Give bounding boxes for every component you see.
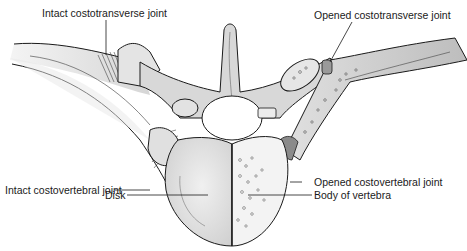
vertebral-body [165,137,288,246]
label-intact-costotransverse-joint: Intact costotransverse joint [42,7,167,19]
label-opened-costotransverse-joint: Opened costotransverse joint [314,9,451,21]
label-disk: Disk [105,189,125,201]
vertebra-illustration [0,0,467,251]
label-body-of-vertebra: Body of vertebra [314,189,391,201]
label-opened-costovertebral-joint: Opened costovertebral joint [314,176,442,188]
left-rib [10,43,182,190]
vertebral-foramen [202,96,262,140]
right-rib [275,38,467,160]
